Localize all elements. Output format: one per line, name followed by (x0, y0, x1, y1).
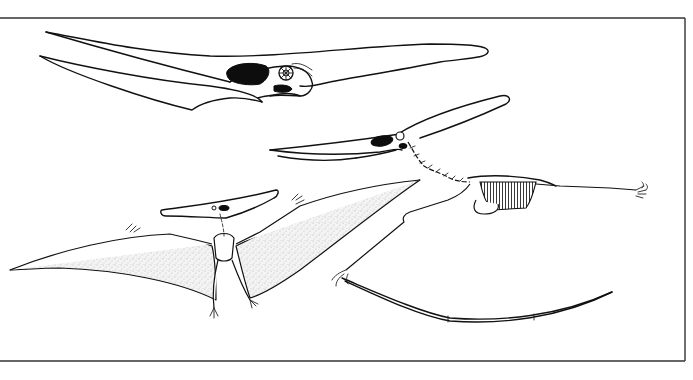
pteranodon-illustration (0, 0, 693, 380)
flying-reconstruction-figure (10, 180, 420, 318)
skull-figure (40, 32, 488, 110)
illustration-canvas (0, 0, 693, 380)
antorbital-fenestra (227, 63, 269, 84)
lower-fenestra (274, 85, 292, 92)
